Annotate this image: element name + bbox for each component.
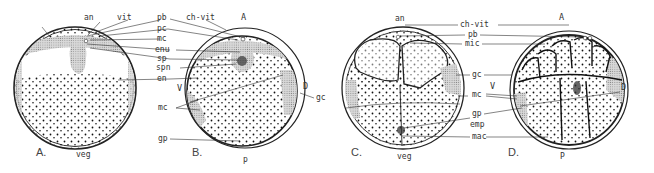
label-gc-cd: gc bbox=[472, 71, 482, 79]
label-mc-ab-top: mc bbox=[157, 35, 167, 43]
label-p-b: p bbox=[243, 156, 248, 164]
axis-label-dorsal-b: D bbox=[303, 82, 308, 91]
panel-a-egg bbox=[14, 27, 136, 149]
label-veg-a: veg bbox=[76, 151, 90, 159]
label-gp-cd: gp bbox=[472, 110, 482, 118]
label-mc-cd: mc bbox=[472, 91, 482, 99]
label-an-c: an bbox=[395, 15, 405, 23]
label-mac: mac bbox=[472, 133, 486, 141]
label-pb-cd: pb bbox=[468, 31, 478, 39]
label-pb-ab: pb bbox=[157, 14, 167, 22]
axis-label-ventral-d: V bbox=[490, 82, 495, 91]
panel-c-egg bbox=[342, 27, 464, 149]
label-veg-c: veg bbox=[397, 153, 411, 161]
panel-label-a: A. bbox=[36, 147, 46, 158]
label-pc: pc bbox=[157, 25, 167, 33]
panel-b-egg bbox=[185, 28, 305, 148]
embryo-cleavage-figure bbox=[0, 0, 654, 173]
axis-label-dorsal-d: D bbox=[621, 83, 626, 92]
label-vit: vit bbox=[117, 14, 131, 22]
axis-label-ventral-b: V bbox=[177, 84, 182, 93]
label-ch-vit-cd: ch-vit bbox=[460, 21, 489, 29]
label-emp: emp bbox=[470, 121, 484, 129]
panel-label-d: D. bbox=[508, 147, 519, 158]
axis-label-anterior-d: A bbox=[559, 13, 564, 22]
label-mc-ab: mc bbox=[158, 104, 168, 112]
panel-label-c: C. bbox=[351, 147, 362, 158]
label-en: en bbox=[157, 75, 167, 83]
panel-label-b: B. bbox=[192, 147, 202, 158]
label-an-a: an bbox=[84, 14, 94, 22]
label-gc-ab: gc bbox=[316, 94, 326, 102]
axis-label-anterior-b: A bbox=[241, 13, 246, 22]
panel-d-egg bbox=[510, 31, 628, 149]
label-enu: enu bbox=[155, 46, 169, 54]
label-ch-vit-ab: ch-vit bbox=[186, 14, 215, 22]
label-sp: sp bbox=[157, 55, 167, 63]
label-mic: mic bbox=[465, 40, 479, 48]
label-p-d: P bbox=[560, 153, 565, 161]
label-spn: spn bbox=[156, 64, 170, 72]
label-gp-ab: gp bbox=[158, 135, 168, 143]
